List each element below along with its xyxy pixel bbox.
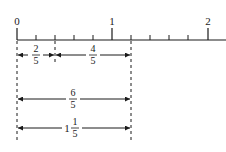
fraction-numerator: 1 (73, 116, 78, 127)
axis-label-1: 1 (109, 15, 115, 27)
segment-four-fifths: 4 5 (56, 43, 130, 66)
fraction-numerator: 4 (91, 43, 96, 54)
number-line-diagram: 0 1 2 2 5 4 5 6 5 1 1 (0, 0, 226, 152)
axis-label-0: 0 (14, 15, 20, 27)
fraction-numerator: 6 (71, 87, 76, 98)
mixed-number-whole: 1 (64, 122, 70, 134)
fraction-denominator: 5 (34, 55, 39, 66)
segment-six-fifths: 6 5 (18, 87, 130, 110)
fraction-denominator: 5 (73, 128, 78, 139)
fraction-numerator: 2 (34, 43, 39, 54)
axis-label-2: 2 (205, 15, 211, 27)
fraction-denominator: 5 (91, 55, 96, 66)
segment-two-fifths: 2 5 (18, 43, 54, 66)
segment-one-and-one-fifth: 1 1 5 (18, 116, 130, 139)
fraction-denominator: 5 (71, 99, 76, 110)
